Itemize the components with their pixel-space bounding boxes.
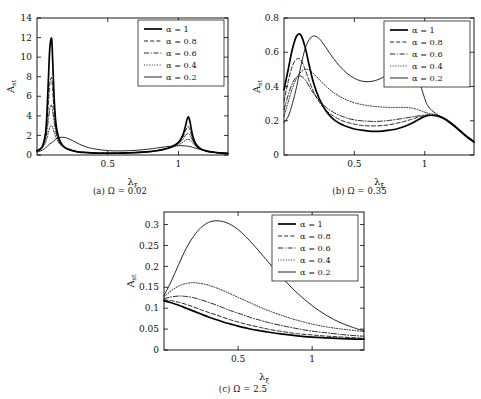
series-line: [164, 296, 364, 336]
legend-label: α = 1: [412, 25, 435, 35]
svg-text:12: 12: [21, 33, 32, 43]
svg-text:0.25: 0.25: [139, 241, 159, 251]
svg-text:0.5: 0.5: [231, 354, 246, 364]
legend-label: α = 0.2: [300, 267, 331, 277]
svg-text:0: 0: [273, 150, 279, 160]
chart-panel-a: 0.5102468101214Astλξα = 1α = 0.8α = 0.6α…: [0, 2, 240, 198]
svg-text:0.3: 0.3: [145, 220, 160, 230]
svg-text:0.2: 0.2: [265, 116, 279, 126]
legend-label: α = 0.4: [300, 255, 331, 265]
legend-label: α = 0.8: [300, 231, 331, 241]
svg-text:Ast: Ast: [5, 80, 18, 95]
svg-text:2: 2: [26, 131, 32, 141]
series-line: [37, 137, 228, 153]
svg-text:0.4: 0.4: [265, 82, 280, 92]
svg-text:0.5: 0.5: [101, 159, 116, 169]
chart-svg-c: 0.5100.050.10.150.20.250.3Astλξα = 1α = …: [112, 198, 374, 397]
svg-text:1: 1: [422, 159, 428, 169]
chart-svg-b: 0.5100.20.40.60.8Astλξα = 1α = 0.8α = 0.…: [238, 2, 481, 198]
svg-text:8: 8: [26, 72, 32, 82]
panel-a-caption: (a) Ω = 0.02: [0, 186, 240, 196]
legend-label: α = 0.8: [412, 37, 443, 47]
svg-text:10: 10: [21, 52, 33, 62]
panel-b-caption: (b) Ω = 0.35: [238, 186, 481, 196]
chart-panel-b: 0.5100.20.40.60.8Astλξα = 1α = 0.8α = 0.…: [238, 2, 481, 198]
chart-svg-a: 0.5102468101214Astλξα = 1α = 0.8α = 0.6α…: [0, 2, 240, 198]
legend-label: α = 0.6: [412, 49, 443, 59]
legend-label: α = 0.8: [166, 36, 197, 46]
svg-text:0: 0: [26, 150, 32, 160]
svg-text:0.1: 0.1: [145, 303, 159, 313]
svg-text:Ast: Ast: [251, 80, 264, 95]
legend-label: α = 0.2: [412, 73, 443, 83]
svg-text:λξ: λξ: [259, 371, 269, 385]
legend-label: α = 0.2: [166, 72, 197, 82]
series-line: [164, 300, 364, 338]
legend-label: α = 0.4: [166, 60, 197, 70]
svg-text:Ast: Ast: [125, 274, 138, 289]
panel-c-caption: (c) Ω = 2.5: [112, 384, 374, 394]
legend-label: α = 1: [166, 24, 189, 34]
svg-text:0.5: 0.5: [347, 159, 362, 169]
svg-text:4: 4: [26, 111, 32, 121]
figure-container: 0.5102468101214Astλξα = 1α = 0.8α = 0.6α…: [0, 0, 481, 399]
svg-text:6: 6: [26, 91, 32, 101]
chart-panel-c: 0.5100.050.10.150.20.250.3Astλξα = 1α = …: [112, 198, 374, 397]
legend-label: α = 0.4: [412, 61, 443, 71]
svg-text:1: 1: [309, 354, 315, 364]
legend-label: α = 0.6: [300, 243, 331, 253]
svg-text:0.8: 0.8: [265, 13, 280, 23]
svg-text:0.15: 0.15: [139, 282, 159, 292]
series-line: [37, 77, 228, 153]
series-line: [37, 105, 228, 154]
legend-label: α = 1: [300, 219, 323, 229]
svg-text:0: 0: [153, 345, 159, 355]
svg-text:14: 14: [21, 13, 33, 23]
legend-label: α = 0.6: [166, 48, 197, 58]
svg-text:0.05: 0.05: [139, 324, 159, 334]
svg-text:0.6: 0.6: [265, 47, 280, 57]
svg-text:0.2: 0.2: [145, 262, 159, 272]
svg-text:1: 1: [176, 159, 182, 169]
